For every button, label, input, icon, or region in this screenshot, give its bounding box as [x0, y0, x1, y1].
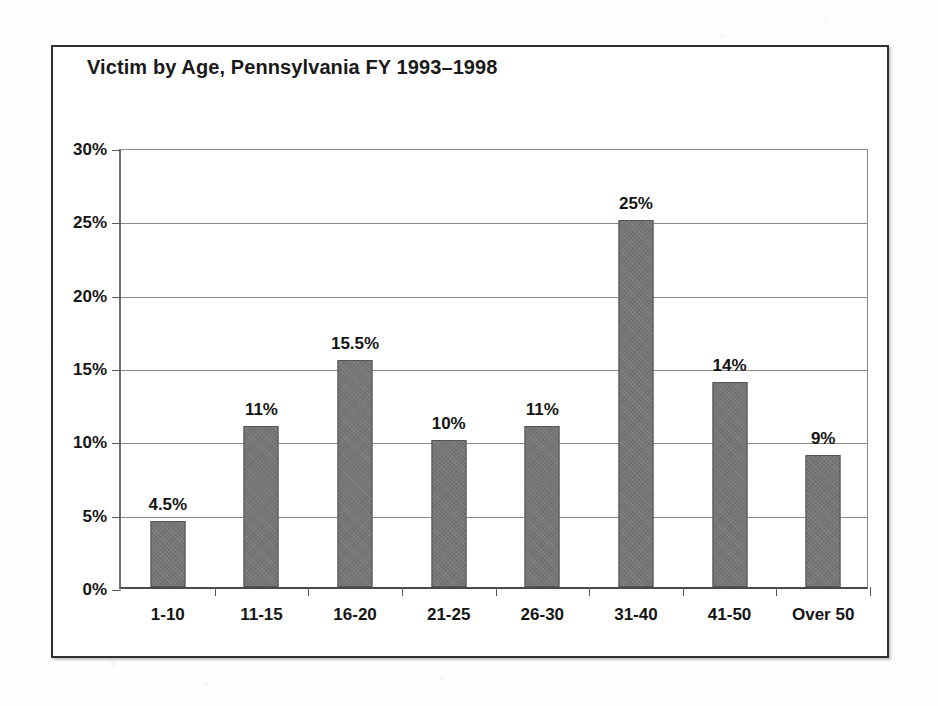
bar[interactable]: [244, 426, 279, 587]
bar-value-label: 10%: [432, 414, 466, 434]
bar-value-label: 11%: [526, 400, 559, 420]
y-axis-label: 10%: [73, 433, 107, 453]
y-axis-tick: [112, 297, 121, 298]
bar[interactable]: [150, 521, 185, 587]
x-axis-tick: [589, 587, 590, 596]
y-axis-label: 25%: [73, 213, 107, 233]
chart-frame: Victim by Age, Pennsylvania FY 1993–1998…: [51, 45, 889, 658]
x-axis-tick: [870, 587, 871, 596]
bar-value-label: 25%: [619, 194, 653, 214]
x-axis-tick: [496, 587, 497, 596]
y-axis-tick: [112, 590, 121, 591]
y-axis-tick: [112, 150, 121, 151]
y-axis-label: 0%: [82, 580, 107, 600]
x-axis-tick: [683, 587, 684, 596]
y-axis-label: 30%: [73, 140, 107, 160]
x-axis-label: 11-15: [240, 605, 283, 625]
bar-value-label: 14%: [713, 356, 747, 376]
bar-value-label: 9%: [811, 429, 836, 449]
x-axis-label: 1-10: [151, 605, 185, 625]
y-axis-tick: [112, 223, 121, 224]
y-axis-tick: [112, 517, 121, 518]
bar[interactable]: [338, 360, 373, 587]
bar[interactable]: [806, 455, 841, 587]
screenshot-root: Victim by Age, Pennsylvania FY 1993–1998…: [0, 0, 938, 706]
bar-value-label: 11%: [245, 400, 278, 420]
x-axis-label: Over 50: [792, 605, 854, 625]
plot-area: 0%5%10%15%20%25%30% 4.5%11%15.5%10%11%25…: [119, 149, 868, 589]
bar[interactable]: [431, 440, 466, 587]
bar[interactable]: [712, 382, 747, 587]
y-axis-label: 5%: [82, 507, 107, 527]
y-axis-tick: [112, 370, 121, 371]
x-axis-label: 26-30: [521, 605, 564, 625]
bar-slot: 4.5%: [121, 150, 215, 587]
x-axis-label: 16-20: [333, 605, 376, 625]
x-axis-tick: [776, 587, 777, 596]
bar-value-label: 4.5%: [148, 495, 187, 515]
bar-slot: 10%: [402, 150, 496, 587]
bar-slot: 14%: [683, 150, 777, 587]
y-axis-label: 15%: [73, 360, 107, 380]
bar[interactable]: [618, 220, 653, 587]
x-axis-label: 21-25: [427, 605, 470, 625]
y-axis-label: 20%: [73, 287, 107, 307]
y-axis-tick: [112, 443, 121, 444]
bar-slot: 15.5%: [308, 150, 402, 587]
x-axis-tick: [308, 587, 309, 596]
bar-slot: 11%: [496, 150, 590, 587]
chart-title: Victim by Age, Pennsylvania FY 1993–1998: [87, 56, 498, 79]
bar-value-label: 15.5%: [331, 334, 379, 354]
bar-slot: 11%: [215, 150, 309, 587]
bar-slot: 25%: [589, 150, 683, 587]
bar[interactable]: [525, 426, 560, 587]
x-axis-tick: [402, 587, 403, 596]
bar-slot: 9%: [776, 150, 870, 587]
x-axis-label: 31-40: [614, 605, 657, 625]
x-axis-tick: [215, 587, 216, 596]
x-axis-label: 41-50: [708, 605, 751, 625]
